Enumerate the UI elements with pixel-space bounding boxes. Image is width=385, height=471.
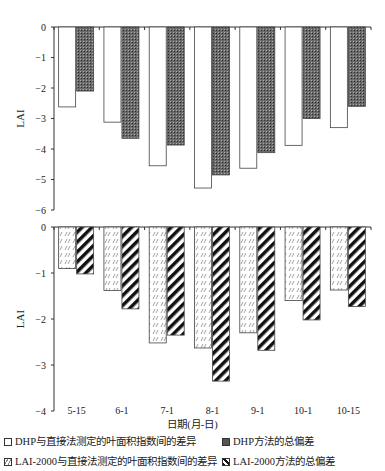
y-axis-label: LAI bbox=[14, 109, 26, 128]
y-tick-label: −3 bbox=[35, 360, 46, 371]
x-tick-label: 9-1 bbox=[251, 405, 264, 416]
bar bbox=[330, 27, 347, 128]
y-tick-label: −2 bbox=[35, 314, 46, 325]
x-tick-label: 10-15 bbox=[337, 405, 360, 416]
bar bbox=[258, 27, 275, 153]
legend-item-dhp-diff: DHP与直接法测定的叶面积指数间的差异 bbox=[4, 433, 196, 448]
legend-item-lai2000-diff: LAI-2000与直接法测定的叶面积指数间的差异 bbox=[4, 453, 217, 468]
bar bbox=[195, 27, 212, 188]
bar bbox=[285, 227, 302, 301]
bar bbox=[195, 227, 212, 348]
x-axis-title: 日期(月-日) bbox=[0, 416, 385, 431]
y-tick-label: −3 bbox=[35, 113, 46, 124]
chart-canvas: 0−1−2−3−4−5−6LAI 0−1−2−3−45-156-17-18-19… bbox=[0, 0, 385, 471]
y-tick-label: −6 bbox=[35, 205, 46, 216]
bar bbox=[213, 27, 230, 175]
bar bbox=[122, 227, 139, 309]
bar bbox=[122, 27, 139, 138]
y-tick-label: 0 bbox=[41, 22, 46, 33]
bar bbox=[77, 227, 94, 274]
bar bbox=[59, 227, 76, 268]
hatch-swatch-icon bbox=[4, 458, 12, 466]
bar bbox=[167, 27, 184, 145]
legend-item-lai2000-bias: LAI-2000方法的总偏差 bbox=[222, 453, 335, 468]
x-tick-label: 5-15 bbox=[67, 405, 85, 416]
bar bbox=[59, 27, 76, 107]
bar bbox=[303, 27, 320, 119]
bar bbox=[348, 27, 365, 106]
bar bbox=[330, 227, 347, 290]
x-tick-label: 7-1 bbox=[161, 405, 174, 416]
bar bbox=[149, 227, 166, 343]
bar bbox=[213, 227, 230, 381]
x-tick-label: 8-1 bbox=[206, 405, 219, 416]
y-tick-label: −1 bbox=[35, 52, 46, 63]
top-chart-panel: 0−1−2−3−4−5−6LAI bbox=[14, 22, 371, 216]
x-tick-label: 10-1 bbox=[294, 405, 312, 416]
y-tick-label: −4 bbox=[35, 406, 46, 417]
y-tick-label: −4 bbox=[35, 144, 46, 155]
bar bbox=[104, 27, 121, 122]
bar bbox=[285, 27, 302, 145]
white-swatch-icon bbox=[4, 438, 12, 446]
bar bbox=[167, 227, 184, 335]
y-tick-label: −1 bbox=[35, 268, 46, 279]
bar bbox=[258, 227, 275, 350]
bar bbox=[240, 27, 257, 168]
bar bbox=[77, 27, 94, 91]
bottom-chart-panel: 0−1−2−3−45-156-17-18-19-110-110-15LAI bbox=[14, 222, 371, 417]
diagonal-swatch-icon bbox=[222, 458, 230, 466]
y-tick-label: −5 bbox=[35, 174, 46, 185]
y-axis-label: LAI bbox=[14, 310, 26, 329]
y-tick-label: 0 bbox=[41, 222, 46, 233]
dark-swatch-icon bbox=[222, 438, 230, 446]
bar bbox=[240, 227, 257, 333]
x-tick-label: 6-1 bbox=[115, 405, 128, 416]
y-tick-label: −2 bbox=[35, 83, 46, 94]
bar bbox=[149, 27, 166, 166]
bar bbox=[104, 227, 121, 290]
legend-item-dhp-bias: DHP方法的总偏差 bbox=[222, 433, 314, 448]
bar bbox=[303, 227, 320, 320]
bar bbox=[348, 227, 365, 307]
